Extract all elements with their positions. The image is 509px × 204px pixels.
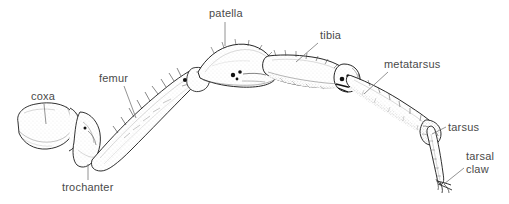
label-patella: patella [209, 7, 243, 19]
spider-leg-drawing [0, 0, 509, 204]
label-tarsus: tarsus [448, 121, 479, 133]
label-metatarsus: metatarsus [384, 58, 440, 70]
label-femur: femur [99, 72, 128, 84]
segment-coxa [18, 103, 75, 149]
label-trochanter: trochanter [62, 181, 114, 193]
label-tarsal-claw-line2: claw [466, 163, 494, 176]
leader-tarsal-claw [444, 168, 464, 184]
label-tarsal-claw-line1: tarsal [466, 150, 494, 163]
label-coxa: coxa [31, 90, 55, 102]
leader-femur [124, 86, 136, 118]
spider-leg-figure: coxa trochanter femur patella tibia meta… [0, 0, 509, 204]
label-tibia: tibia [320, 29, 341, 41]
tarsal-claw [436, 179, 452, 193]
label-tarsal-claw: tarsal claw [466, 150, 494, 176]
